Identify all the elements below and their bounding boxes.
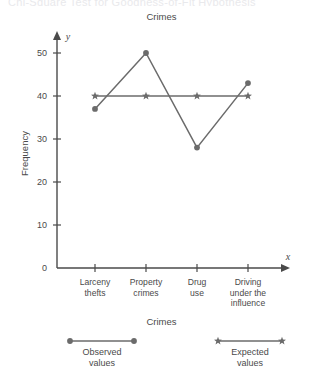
x-category-label: Larceny — [80, 277, 111, 287]
series-marker-star — [91, 92, 99, 100]
x-axis-letter: x — [285, 251, 291, 262]
series-marker-star — [244, 92, 252, 100]
y-tick-label: 20 — [37, 177, 47, 187]
y-tick-label: 40 — [37, 91, 47, 101]
chart-page: Chi-Square Test for Goodness-of-Fit Hypo… — [0, 0, 323, 378]
y-tick-label: 0 — [42, 263, 47, 273]
series-marker-circle — [245, 80, 251, 86]
legend-label: values — [89, 358, 116, 368]
axes-group: xy — [53, 31, 291, 272]
series-marker-circle — [143, 50, 149, 56]
y-tick-label: 10 — [37, 220, 47, 230]
x-category-label-group: LarcenytheftsPropertycrimesDruguseDrivin… — [80, 277, 267, 308]
series-marker-star — [193, 92, 201, 100]
series-marker-circle — [194, 145, 200, 151]
y-tick-label: 30 — [37, 134, 47, 144]
series-marker-star — [142, 92, 150, 100]
x-category-label: under the — [230, 288, 267, 298]
legend-group: ObservedvaluesExpectedvalues — [67, 337, 286, 368]
series-marker-circle — [92, 106, 98, 112]
x-category-label: Property — [130, 277, 163, 287]
data-series-group — [91, 50, 252, 150]
x-category-label: use — [190, 288, 204, 298]
x-category-label: Drug — [188, 277, 207, 287]
legend-label: Expected — [231, 347, 269, 357]
legend-label: Observed — [82, 347, 121, 357]
y-axis-letter: y — [65, 31, 71, 42]
legend-marker-star — [214, 337, 222, 345]
x-axis-arrowhead — [281, 264, 290, 272]
y-tick-label: 50 — [37, 48, 47, 58]
x-category-label: thefts — [84, 288, 105, 298]
y-axis-arrowhead — [53, 31, 61, 40]
series-line — [95, 53, 248, 148]
legend-marker-circle — [131, 338, 137, 344]
x-category-label: crimes — [133, 288, 158, 298]
x-category-label: influence — [231, 298, 266, 308]
legend-marker-circle — [67, 338, 73, 344]
x-axis-title: Crimes — [0, 316, 323, 327]
legend-label: values — [237, 358, 264, 368]
legend-marker-star — [278, 337, 286, 345]
x-category-label: Driving — [235, 277, 262, 287]
